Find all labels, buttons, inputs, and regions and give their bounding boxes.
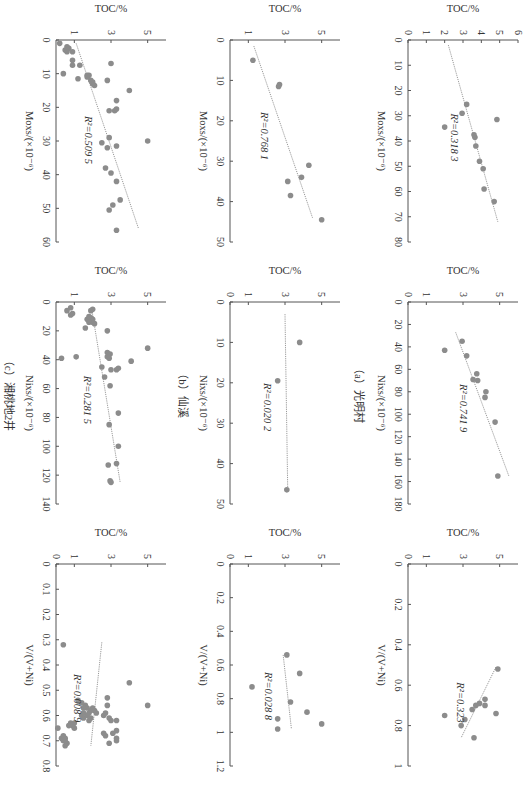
svg-text:100: 100 [41, 439, 52, 454]
svg-text:1: 1 [421, 30, 432, 35]
svg-text:0: 0 [41, 562, 52, 567]
svg-text:0.2: 0.2 [215, 591, 226, 604]
svg-text:80: 80 [393, 387, 404, 397]
svg-text:20: 20 [215, 378, 226, 388]
svg-text:3: 3 [106, 292, 117, 297]
svg-text:0: 0 [225, 292, 236, 297]
scatter-plot: 0204060801001201401601800135Nixs/(×10⁻⁶)… [368, 262, 528, 524]
svg-text:1: 1 [215, 730, 226, 735]
svg-text:20: 20 [393, 86, 404, 96]
svg-text:3: 3 [458, 554, 469, 559]
svg-text:1: 1 [243, 30, 254, 35]
svg-text:R²=0.509 5: R²=0.509 5 [83, 115, 94, 164]
svg-text:50: 50 [393, 161, 404, 171]
panel-a-ni: 0204060801001201401601800135Nixs/(×10⁻⁶)… [368, 262, 528, 524]
panel-b-ni: 010203040500135Nixs/(×10⁻⁶)TOC/%R²=0.020… [190, 262, 350, 524]
svg-text:50: 50 [215, 499, 226, 509]
svg-text:1: 1 [243, 292, 254, 297]
svg-text:0: 0 [51, 554, 62, 559]
svg-text:40: 40 [393, 136, 404, 146]
row-a: 010203040506070800123456Moxs/(×10⁻⁶)TOC/… [358, 0, 528, 786]
svg-text:10: 10 [215, 75, 226, 85]
svg-text:140: 140 [393, 452, 404, 467]
svg-text:0.4: 0.4 [41, 659, 52, 672]
svg-text:Nixs/(×10⁻⁶): Nixs/(×10⁻⁶) [375, 375, 387, 431]
svg-text:5: 5 [142, 30, 153, 35]
svg-text:0.8: 0.8 [393, 719, 404, 732]
svg-text:1: 1 [243, 554, 254, 559]
svg-text:0: 0 [393, 38, 404, 43]
scatter-plot: 00.10.20.30.40.50.60.70.80135V/(V+Ni)TOC… [16, 524, 176, 786]
scatter-plot: 010203040506070800123456Moxs/(×10⁻⁶)TOC/… [368, 0, 528, 262]
svg-text:0.3: 0.3 [41, 634, 52, 647]
svg-text:160: 160 [393, 474, 404, 489]
svg-text:120: 120 [41, 468, 52, 483]
panel-a-mo: 010203040506070800123456Moxs/(×10⁻⁶)TOC/… [368, 0, 528, 262]
scatter-plot: 020406080100120140135Nixs/(×10⁻⁶)TOC/%R²… [16, 262, 176, 524]
svg-text:0.1: 0.1 [41, 583, 52, 596]
svg-text:R²=0.008 9: R²=0.008 9 [72, 673, 83, 723]
svg-text:0: 0 [403, 292, 414, 297]
svg-text:0.6: 0.6 [41, 709, 52, 722]
svg-text:1.2: 1.2 [215, 760, 226, 773]
svg-text:0.5: 0.5 [41, 684, 52, 697]
svg-text:0.6: 0.6 [393, 679, 404, 692]
svg-text:40: 40 [215, 459, 226, 469]
svg-text:R²=0.768 1: R²=0.768 1 [259, 111, 270, 160]
svg-text:1: 1 [69, 292, 80, 297]
svg-text:0: 0 [403, 30, 414, 35]
svg-text:0: 0 [41, 38, 52, 43]
svg-text:40: 40 [41, 355, 52, 365]
svg-text:TOC/%: TOC/% [95, 265, 128, 276]
svg-text:5: 5 [494, 292, 505, 297]
panel-b-mo: 01020304050135Moxs/(×10⁻⁶)TOC/%R²=0.768 … [190, 0, 350, 262]
svg-text:0: 0 [41, 300, 52, 305]
svg-text:50: 50 [41, 203, 52, 213]
svg-text:60: 60 [41, 237, 52, 247]
svg-text:1: 1 [421, 554, 432, 559]
svg-text:140: 140 [41, 497, 52, 512]
svg-text:1: 1 [421, 292, 432, 297]
svg-text:5: 5 [142, 554, 153, 559]
figure: 010203040506070800123456Moxs/(×10⁻⁶)TOC/… [0, 0, 528, 786]
svg-text:30: 30 [215, 156, 226, 166]
svg-text:TOC/%: TOC/% [447, 527, 480, 538]
svg-text:4: 4 [476, 30, 487, 35]
svg-text:R²=0.020 2: R²=0.020 2 [262, 382, 273, 432]
svg-text:0.4: 0.4 [215, 625, 226, 638]
svg-text:0: 0 [215, 38, 226, 43]
svg-text:20: 20 [393, 319, 404, 329]
svg-text:10: 10 [41, 69, 52, 79]
svg-text:3: 3 [280, 292, 291, 297]
svg-text:TOC/%: TOC/% [95, 527, 128, 538]
svg-text:3: 3 [106, 554, 117, 559]
svg-text:40: 40 [393, 342, 404, 352]
svg-text:180: 180 [393, 497, 404, 512]
svg-text:Moxs/(×10⁻⁶): Moxs/(×10⁻⁶) [375, 111, 387, 171]
svg-text:60: 60 [41, 384, 52, 394]
svg-text:5: 5 [494, 554, 505, 559]
svg-text:0.8: 0.8 [215, 692, 226, 705]
svg-text:60: 60 [393, 187, 404, 197]
svg-text:TOC/%: TOC/% [447, 265, 480, 276]
scatter-plot: 010203040500135Nixs/(×10⁻⁶)TOC/%R²=0.020… [190, 262, 350, 524]
svg-text:2: 2 [439, 30, 450, 35]
svg-text:R²=0.318 3: R²=0.318 3 [449, 112, 460, 161]
svg-text:10: 10 [215, 337, 226, 347]
svg-text:10: 10 [393, 60, 404, 70]
svg-text:0.6: 0.6 [215, 659, 226, 672]
svg-text:0: 0 [215, 562, 226, 567]
panel-b-v: 00.20.40.60.811.20135V/(V+Ni)TOC/%R²=0.0… [190, 524, 350, 786]
svg-text:0: 0 [215, 300, 226, 305]
svg-text:3: 3 [106, 30, 117, 35]
svg-text:1: 1 [69, 554, 80, 559]
svg-text:R²=0.281 5: R²=0.281 5 [82, 375, 93, 424]
caption-a: （a）光明村 [352, 0, 368, 786]
scatter-plot: 0102030405060135Moxs/(×10⁻⁶)TOC/%R²=0.50… [16, 0, 176, 262]
svg-text:20: 20 [215, 116, 226, 126]
svg-text:30: 30 [215, 418, 226, 428]
svg-text:80: 80 [393, 237, 404, 247]
svg-text:40: 40 [215, 197, 226, 207]
svg-text:3: 3 [458, 292, 469, 297]
svg-text:80: 80 [41, 412, 52, 422]
